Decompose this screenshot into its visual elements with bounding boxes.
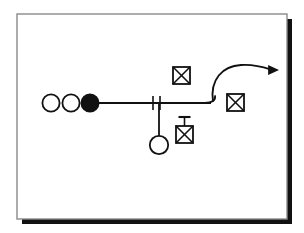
solid-circle-left [81,94,98,111]
crossed-box-right [227,94,244,111]
diagram-frame [17,14,287,219]
schematic-diagram [0,0,304,233]
solid-circle-left-shape [81,94,98,111]
open-circle-left-1-shape [42,94,59,111]
open-circle-left-1 [42,94,59,111]
crossed-box-upper [173,67,190,84]
open-circle-branch-bottom [150,136,168,154]
open-circle-left-2 [62,94,79,111]
open-circle-left-2-shape [62,94,79,111]
open-circle-branch-bottom-shape [150,136,168,154]
diagram-canvas [0,0,304,233]
